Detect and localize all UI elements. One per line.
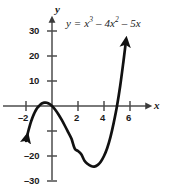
x-tick-label-4: 4 <box>100 112 105 123</box>
equation-term3: x <box>136 17 141 29</box>
equation-term2-exponent: 2 <box>115 15 119 24</box>
equation-equals: = <box>74 17 82 29</box>
x-axis-label: x <box>154 99 160 111</box>
equation-annotation: y = x3 – 4x2 – 5x <box>66 17 141 29</box>
equation-term1-exponent: 3 <box>89 15 93 24</box>
y-tick-label-10: 10 <box>29 75 39 86</box>
y-axis-label: y <box>55 3 60 15</box>
x-tick-label-neg2: –2 <box>18 112 28 123</box>
y-tick-label-20: 20 <box>29 50 39 61</box>
x-tick-label-2: 2 <box>74 112 79 123</box>
equation-lhs: y <box>66 17 71 29</box>
graph-figure: –2 2 4 6 30 20 10 –20 –30 x y y = x3 – 4… <box>0 0 170 185</box>
y-tick-label-neg20: –20 <box>24 150 39 161</box>
equation-minus1: – 4 <box>96 17 110 29</box>
y-tick-label-neg30: –30 <box>24 175 39 185</box>
y-tick-label-30: 30 <box>29 25 39 36</box>
x-tick-label-6: 6 <box>126 112 131 123</box>
equation-minus2: – 5 <box>122 17 136 29</box>
